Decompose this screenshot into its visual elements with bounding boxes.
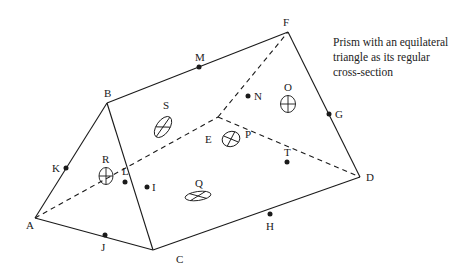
edge-AB: [35, 103, 107, 218]
hidden-edge-EF: [218, 32, 288, 117]
caption-line-1: Prism with an equilateral: [333, 35, 473, 50]
label-R: R: [102, 153, 110, 165]
label-F: F: [283, 16, 289, 28]
point-M: [197, 65, 202, 70]
face-marker-R: [99, 168, 113, 185]
point-L: [123, 180, 128, 185]
label-P: P: [245, 128, 251, 140]
label-K: K: [52, 162, 60, 174]
label-S: S: [163, 99, 169, 111]
caption-line-3: cross-section: [333, 65, 473, 80]
label-G: G: [335, 108, 343, 120]
label-I: I: [152, 181, 156, 193]
face-marker-P: [220, 129, 242, 149]
edge-BC: [107, 103, 153, 250]
label-T: T: [284, 146, 291, 158]
label-E: E: [205, 133, 212, 145]
label-B: B: [104, 87, 111, 99]
label-M: M: [195, 51, 205, 63]
label-L: L: [122, 165, 129, 177]
label-H: H: [266, 220, 274, 232]
point-I: [145, 185, 150, 190]
point-N: [246, 94, 251, 99]
point-K: [64, 166, 69, 171]
point-J: [103, 233, 108, 238]
point-G: [327, 112, 332, 117]
label-Q: Q: [195, 177, 203, 189]
point-T: [285, 160, 290, 165]
label-O: O: [284, 81, 292, 93]
label-N: N: [254, 90, 262, 102]
label-C: C: [176, 253, 183, 265]
label-D: D: [366, 171, 374, 183]
point-H: [268, 212, 273, 217]
face-marker-O: [281, 96, 296, 113]
label-A: A: [26, 219, 34, 231]
edge-AC: [35, 218, 153, 250]
label-J: J: [101, 241, 106, 253]
caption-line-2: triangle as its regular: [333, 50, 473, 65]
face-marker-S: [151, 113, 175, 140]
figure-caption: Prism with an equilateral triangle as it…: [333, 35, 473, 80]
face-marker-Q: [185, 190, 212, 203]
edge-CD: [153, 177, 360, 250]
